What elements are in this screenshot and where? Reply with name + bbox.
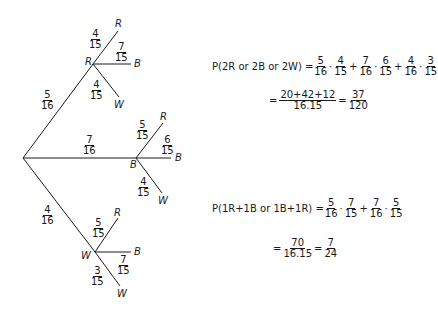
prob-first-B: 7 16 bbox=[82, 135, 97, 156]
prob-R-then-R: 4 15 bbox=[88, 29, 103, 50]
leaf-BW: W bbox=[158, 196, 168, 206]
leaf-WW: W bbox=[117, 289, 127, 299]
leaf-BR: R bbox=[160, 112, 167, 122]
prob-first-W: 4 16 bbox=[40, 205, 55, 226]
prob-B-then-R: 5 15 bbox=[135, 120, 150, 141]
equation-mixed-colour: P(1R+1B or 1B+1R) = 516 · 715 + 716 · 51… bbox=[212, 198, 404, 219]
prob-R-then-B: 7 15 bbox=[114, 42, 129, 63]
prob-W-then-W: 3 15 bbox=[90, 266, 105, 287]
equation-lhs: P(2R or 2B or 2W) = bbox=[212, 61, 313, 72]
leaf-RB: B bbox=[134, 59, 141, 69]
leaf-RR: R bbox=[115, 19, 122, 29]
equation-mixed-colour-step2: = 7016.15 = 724 bbox=[272, 238, 338, 259]
equation-lhs: P(1R+1B or 1B+1R) = bbox=[212, 203, 324, 214]
prob-B-then-B: 6 15 bbox=[160, 135, 175, 156]
node-W: W bbox=[81, 251, 91, 261]
prob-R-then-W: 4 15 bbox=[89, 80, 104, 101]
node-B: B bbox=[130, 160, 137, 170]
prob-W-then-B: 7 15 bbox=[116, 255, 131, 276]
equation-same-colour: P(2R or 2B or 2W) = 516 · 415 + 716 · 61… bbox=[212, 56, 438, 77]
leaf-RW: W bbox=[114, 100, 124, 110]
prob-W-then-R: 5 15 bbox=[91, 218, 106, 239]
equation-same-colour-step2: = 20+42+1216.15 = 37120 bbox=[268, 90, 369, 111]
prob-first-R: 5 16 bbox=[40, 90, 55, 111]
leaf-WR: R bbox=[114, 208, 121, 218]
node-R: R bbox=[85, 57, 92, 67]
prob-B-then-W: 4 15 bbox=[136, 177, 151, 198]
leaf-WB: B bbox=[134, 247, 141, 257]
leaf-BB: B bbox=[175, 153, 182, 163]
